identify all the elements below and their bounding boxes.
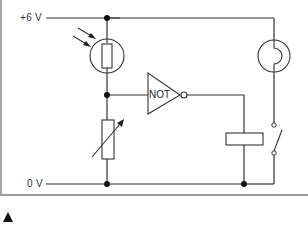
positive-rail-label: +6 V — [20, 12, 42, 23]
junction-dot-bottom-right — [241, 181, 247, 187]
relay-coil-icon — [226, 133, 263, 145]
junction-dot-top — [104, 15, 110, 21]
lamp-icon — [258, 40, 290, 72]
circuit-diagram — [0, 0, 308, 228]
figure-marker-triangle-icon — [3, 212, 13, 222]
junction-dot-bottom-left — [104, 181, 110, 187]
ground-rail-label: 0 V — [27, 178, 43, 189]
ldr-icon — [73, 28, 124, 73]
relay-switch-icon — [272, 123, 282, 155]
not-gate-label: NOT — [149, 89, 170, 100]
variable-resistor-icon — [92, 119, 124, 159]
junction-dot-middle — [104, 92, 110, 98]
